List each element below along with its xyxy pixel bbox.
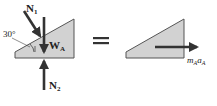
inertial-label: mAaA	[187, 55, 206, 66]
wedge-right	[126, 19, 184, 58]
n1-label: N1	[26, 2, 38, 16]
equals-sign	[93, 37, 109, 44]
angle-label: 30°	[3, 29, 16, 39]
angle-leader	[12, 38, 30, 47]
n1-arrow-icon	[24, 11, 40, 36]
n2-label: N2	[49, 79, 61, 93]
diagram-canvas: N1 30° WA N2 mAaA	[0, 0, 217, 106]
